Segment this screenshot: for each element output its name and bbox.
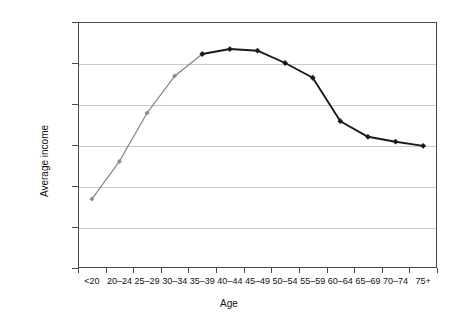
gridline (79, 105, 436, 106)
x-tick-label: 50–54 (273, 276, 298, 286)
x-tick-label: 65–69 (355, 276, 380, 286)
x-axis-title: Age (0, 298, 458, 309)
gridline (79, 64, 436, 65)
x-tick-label: 70–74 (383, 276, 408, 286)
chart-container: Average income £0£5,000£10,000£15,000£20… (0, 0, 458, 321)
x-tick-label: 45–49 (245, 276, 270, 286)
x-tick-mark (106, 268, 107, 273)
x-tick-label: 20–24 (107, 276, 132, 286)
x-tick-mark (271, 268, 272, 273)
x-tick-mark (188, 268, 189, 273)
x-tick-label: 25–29 (135, 276, 160, 286)
gridline (79, 187, 436, 188)
y-axis-title: Average income (39, 124, 50, 196)
x-tick-mark (244, 268, 245, 273)
x-tick-mark (354, 268, 355, 273)
x-tick-mark (78, 268, 79, 273)
x-tick-label: 75+ (416, 276, 431, 286)
x-tick-mark (133, 268, 134, 273)
x-tick-label: 35–39 (190, 276, 215, 286)
x-tick-mark (216, 268, 217, 273)
x-tick-label: 40–44 (217, 276, 242, 286)
x-tick-mark (382, 268, 383, 273)
x-tick-label: 30–34 (162, 276, 187, 286)
x-tick-label: <20 (84, 276, 99, 286)
x-tick-label: 55–59 (300, 276, 325, 286)
x-tick-label: 60–64 (328, 276, 353, 286)
x-tick-mark (299, 268, 300, 273)
plot-area (78, 22, 437, 268)
x-tick-mark (161, 268, 162, 273)
x-tick-mark (437, 268, 438, 273)
gridline (79, 228, 436, 229)
x-tick-mark (409, 268, 410, 273)
x-tick-mark (327, 268, 328, 273)
gridline (79, 146, 436, 147)
